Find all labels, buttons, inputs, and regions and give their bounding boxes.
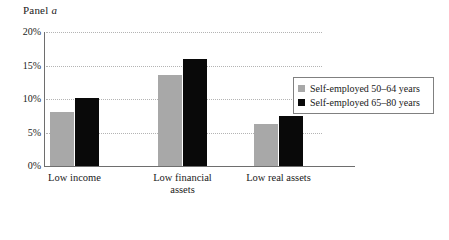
gridline [46,32,322,33]
legend-swatch-icon [298,99,305,106]
legend-item-label: Self-employed 65–80 years [310,97,420,108]
y-axis-tick: 5% [0,128,41,138]
bar [158,75,182,166]
legend-swatch-icon [298,85,305,92]
y-axis-tick: 0% [0,161,41,171]
bar [254,124,278,166]
bar [279,116,303,166]
y-axis-tick: 15% [0,61,41,71]
x-axis-category-label: Low financial assets [128,172,238,196]
bar [50,112,74,166]
y-axis-tick-label: 10% [3,94,41,104]
y-axis-tick-label: 20% [3,27,41,37]
legend-item[interactable]: Self-employed 50–64 years [298,81,429,95]
bar [75,98,99,166]
x-axis-line [44,166,355,167]
chart-legend: Self-employed 50–64 yearsSelf-employed 6… [293,77,434,114]
y-axis-tick-label: 0% [3,161,41,171]
y-axis-line [44,32,45,167]
y-axis-tick: 20% [0,27,41,37]
y-axis-tick: 10% [0,94,41,104]
legend-item-label: Self-employed 50–64 years [310,83,420,94]
legend-item[interactable]: Self-employed 65–80 years [298,95,429,109]
bar [183,59,207,166]
y-axis-tick-label: 5% [3,128,41,138]
x-axis-category-label: Low income [20,172,130,184]
y-axis-tick-label: 15% [3,61,41,71]
x-axis-category-label: Low real assets [224,172,334,184]
